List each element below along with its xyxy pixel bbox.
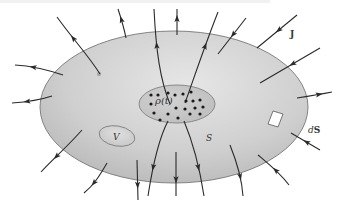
charge-dot: [184, 99, 187, 102]
label-surface-element: dS: [308, 125, 320, 135]
arrowhead-top-left-2: [118, 15, 125, 23]
charge-dot: [188, 112, 191, 115]
charge-dot: [183, 107, 186, 110]
charge-dot: [189, 90, 192, 93]
charge-dot: [174, 106, 177, 109]
charge-dot: [201, 105, 204, 108]
arrowhead-right-1: [288, 60, 297, 68]
charge-dot: [176, 116, 179, 119]
charge-dot: [198, 98, 201, 101]
flux-line-top-left-2: [118, 9, 126, 38]
label-current-density: J: [289, 29, 294, 39]
charge-dot: [158, 118, 161, 121]
charge-dot: [149, 93, 152, 96]
flux-line-bottom-right-1: [258, 155, 289, 185]
cropped-caption-fragment: [0, 0, 270, 3]
charge-dot: [191, 99, 194, 102]
charge-dot: [173, 93, 176, 96]
charge-dot: [181, 92, 184, 95]
label-surface: S: [206, 133, 212, 143]
charge-dot: [149, 102, 152, 105]
charge-dot: [198, 112, 201, 115]
charge-dot: [193, 106, 196, 109]
charge-dot: [152, 111, 155, 114]
charge-dot: [166, 112, 169, 115]
flux-diagram: J ρ(t) V S dS: [0, 0, 341, 208]
label-charge-density: ρ(t): [154, 95, 173, 106]
label-ds-s: S: [314, 125, 321, 135]
arrowhead-right-3: [302, 138, 311, 146]
